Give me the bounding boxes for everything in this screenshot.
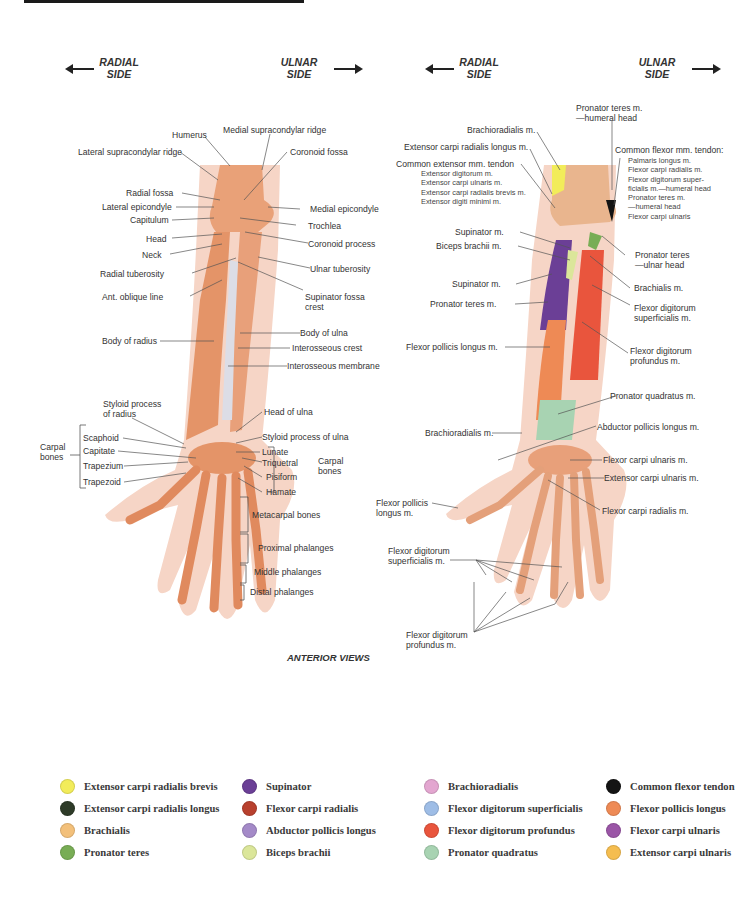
legend-item: Extensor carpi ulnaris [606,844,741,860]
common-flexor-list: Palmaris longus m. Flexor carpi radialis… [628,156,711,221]
label-pronator-teres-ulnar-head: Pronator teres—ulnar head [635,250,689,270]
label-extensor-carpi-ulnaris: Extensor carpi ulnaris m. [604,473,699,483]
label-brachioradialis-top: Brachioradialis m. [467,125,535,135]
label-extensor-carpi-radialis-longus: Extensor carpi radialis longus m. [404,142,528,152]
legend-item: Supinator [242,778,424,794]
label-styloid-process-ulna: Styloid process of ulna [262,432,348,442]
label-common-extensor-tendon: Common extensor mm. tendon [396,159,514,169]
label-ant-oblique-line: Ant. oblique line [102,292,163,302]
label-common-flexor-tendon: Common flexor mm. tendon: [615,145,723,155]
label-body-of-ulna: Body of ulna [300,328,348,338]
label-styloid-process-radius: Styloid processof radius [103,399,161,419]
legend-item: Extensor carpi radialis longus [60,800,242,816]
label-supinator-top: Supinator m. [455,227,504,237]
legend-item: Flexor carpi ulnaris [606,822,741,838]
legend-item: Brachioradialis [424,778,606,794]
label-pisiform: Pisiform [266,472,297,482]
legend-item: Flexor digitorum superficialis [424,800,606,816]
label-brachialis: Brachialis m. [634,283,683,293]
label-lateral-supracondylar-ridge: Lateral supracondylar ridge [78,147,182,157]
label-metacarpal-bones: Metacarpal bones [252,510,320,520]
legend-item: Biceps brachii [242,844,424,860]
label-ulnar-tuberosity: Ulnar tuberosity [310,264,370,274]
swatch-icon [606,845,621,860]
legend-item: Flexor digitorum profundus [424,822,606,838]
label-supinator-fossa-crest: Supinator fossacrest [305,292,365,312]
label-pronator-teres-humeral-head: Pronator teres m.—humeral head [576,103,642,123]
label-pronator-quadratus: Pronator quadratus m. [610,391,696,401]
label-medial-epicondyle: Medial epicondyle [310,204,379,214]
label-flexor-digitorum-superficialis: Flexor digitorumsuperficialis m. [634,303,696,323]
label-interosseous-membrane: Interosseous membrane [287,361,380,371]
legend-item: Pronator quadratus [424,844,606,860]
label-flexor-digitorum-profundus: Flexor digitorumprofundus m. [630,346,692,366]
label-radial-tuberosity: Radial tuberosity [100,269,164,279]
swatch-icon [242,801,257,816]
figure-caption: ANTERIOR VIEWS [287,652,370,663]
legend-item: Common flexor tendon [606,778,741,794]
legend-item: Extensor carpi radialis brevis [60,778,242,794]
swatch-icon [60,845,75,860]
label-medial-supracondylar-ridge: Medial supracondylar ridge [223,125,326,135]
common-extensor-list: Extensor digitorum m. Extensor carpi uln… [421,169,526,206]
label-capitate: Capitate [83,446,115,456]
label-flexor-pollicis-longus: Flexor pollicis longus m. [406,342,498,352]
label-flexor-carpi-radialis: Flexor carpi radialis m. [602,506,688,516]
legend-item: Abductor pollicis longus [242,822,424,838]
label-flexor-carpi-ulnaris: Flexor carpi ulnaris m. [603,455,688,465]
label-triquetral: Triquetral [262,458,298,468]
label-flexor-pollicis-longus-hand: Flexor pollicislongus m. [376,498,428,518]
label-fdp-hand: Flexor digitorumprofundus m. [406,630,468,650]
label-brachioradialis-low: Brachioradialis m. [425,428,493,438]
color-legend: Extensor carpi radialis brevis Supinator… [60,778,720,860]
swatch-icon [606,823,621,838]
label-proximal-phalanges: Proximal phalanges [258,543,333,553]
label-middle-phalanges: Middle phalanges [254,567,321,577]
label-biceps-brachii: Biceps brachii m. [436,241,501,251]
label-carpal-bones-left: Carpalbones [40,442,65,462]
label-humerus: Humerus [172,130,207,140]
swatch-icon [242,845,257,860]
label-trapezium: Trapezium [83,461,123,471]
label-hamate: Hamate [266,487,296,497]
label-body-of-radius: Body of radius [102,336,157,346]
label-trochlea: Trochlea [308,221,341,231]
label-pronator-teres: Pronator teres m. [430,299,496,309]
swatch-icon [60,779,75,794]
swatch-icon [424,845,439,860]
label-head: Head [146,234,167,244]
swatch-icon [606,779,621,794]
swatch-icon [60,801,75,816]
label-coronoid-fossa: Coronoid fossa [290,147,348,157]
label-capitulum: Capitulum [130,215,169,225]
label-supinator-mid: Supinator m. [452,279,501,289]
label-lateral-epicondyle: Lateral epicondyle [102,202,172,212]
swatch-icon [424,779,439,794]
legend-item: Flexor pollicis longus [606,800,741,816]
label-carpal-bones-right: Carpalbones [318,456,343,476]
swatch-icon [60,823,75,838]
swatch-icon [424,801,439,816]
swatch-icon [606,801,621,816]
label-neck: Neck [142,250,162,260]
swatch-icon [242,779,257,794]
swatch-icon [242,823,257,838]
label-interosseous-crest: Interosseous crest [292,343,362,353]
label-coronoid-process: Coronoid process [308,239,375,249]
label-radial-fossa: Radial fossa [126,188,173,198]
label-trapezoid: Trapezoid [83,477,121,487]
label-abductor-pollicis-longus: Abductor pollicis longus m. [597,422,699,432]
label-head-of-ulna: Head of ulna [264,407,313,417]
swatch-icon [424,823,439,838]
legend-item: Pronator teres [60,844,242,860]
label-lunate: Lunate [262,447,288,457]
label-fds-hand: Flexor digitorumsuperficialis m. [388,546,450,566]
label-distal-phalanges: Distal phalanges [250,587,314,597]
label-scaphoid: Scaphoid [83,433,119,443]
legend-item: Flexor carpi radialis [242,800,424,816]
legend-item: Brachialis [60,822,242,838]
